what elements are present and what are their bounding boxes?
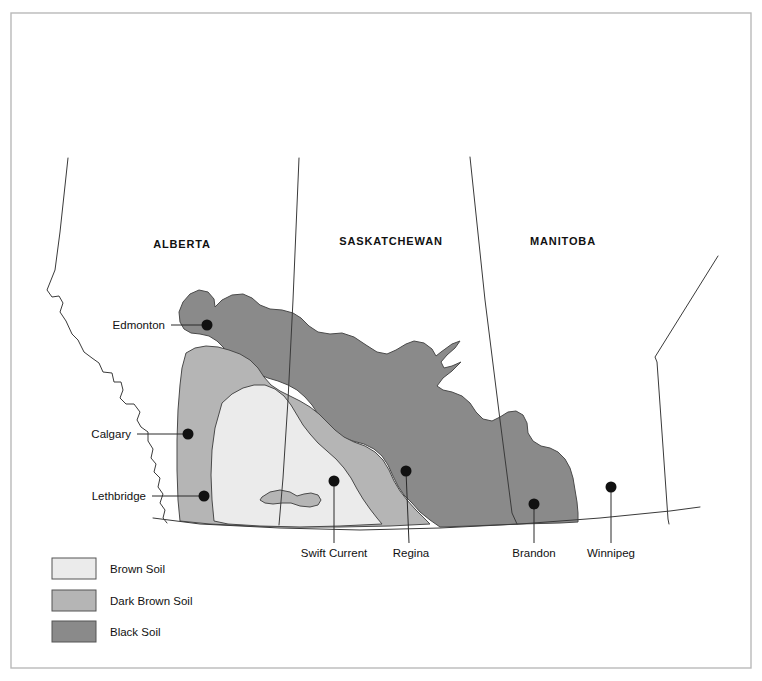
city-label-lethbridge: Lethbridge xyxy=(92,490,146,502)
city-dot-regina[interactable] xyxy=(401,466,412,477)
city-dot-edmonton[interactable] xyxy=(202,320,213,331)
province-label-manitoba: MANITOBA xyxy=(530,235,596,247)
map-legend: Brown Soil Dark Brown Soil Black Soil xyxy=(52,558,192,642)
city-label-winnipeg: Winnipeg xyxy=(587,547,635,559)
legend-swatch-black-soil xyxy=(52,621,96,642)
city-dot-swift-current[interactable] xyxy=(329,476,340,487)
city-label-brandon: Brandon xyxy=(512,547,555,559)
city-dot-calgary[interactable] xyxy=(183,429,194,440)
province-label-saskatchewan: SASKATCHEWAN xyxy=(339,235,443,247)
province-label-group: ALBERTA SASKATCHEWAN MANITOBA xyxy=(153,235,596,250)
legend-swatch-dark-brown-soil xyxy=(52,590,96,611)
soil-zones-map: ALBERTA SASKATCHEWAN MANITOBA Edmont xyxy=(0,0,762,681)
legend-label-dark-brown-soil: Dark Brown Soil xyxy=(110,595,192,607)
city-dot-brandon[interactable] xyxy=(529,499,540,510)
figure-root: ALBERTA SASKATCHEWAN MANITOBA Edmont xyxy=(0,0,762,681)
legend-label-brown-soil: Brown Soil xyxy=(110,563,165,575)
province-label-alberta: ALBERTA xyxy=(153,238,211,250)
city-label-calgary: Calgary xyxy=(91,428,131,440)
city-dot-lethbridge[interactable] xyxy=(199,491,210,502)
manitoba-ontario-border xyxy=(655,256,718,524)
legend-label-black-soil: Black Soil xyxy=(110,626,161,638)
city-label-regina: Regina xyxy=(393,547,430,559)
city-label-edmonton: Edmonton xyxy=(113,319,165,331)
city-dot-winnipeg[interactable] xyxy=(606,482,617,493)
british-columbia-alberta-border xyxy=(47,158,167,523)
soil-zone-group xyxy=(177,290,578,527)
city-label-swift-current: Swift Current xyxy=(301,547,368,559)
legend-swatch-brown-soil xyxy=(52,558,96,579)
